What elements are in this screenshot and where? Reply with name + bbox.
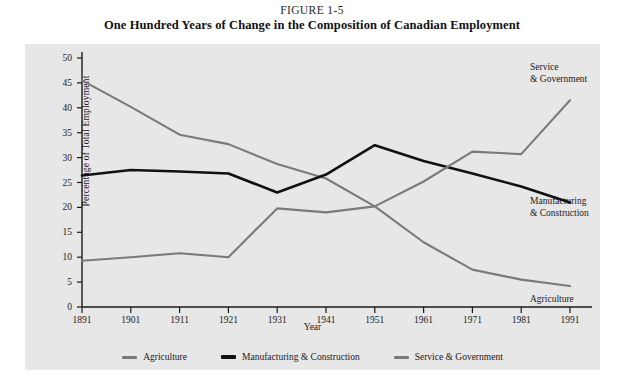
y-axis-tick-label: 0 — [50, 302, 72, 312]
series-annotation: Agriculture — [530, 294, 574, 306]
y-axis-tick-label: 35 — [50, 128, 72, 138]
x-axis-tick-label: 1981 — [498, 315, 544, 326]
legend-swatch-icon — [221, 355, 236, 359]
x-axis-tick-label: 1991 — [547, 315, 593, 326]
x-axis-tick-label: 1921 — [205, 315, 251, 326]
y-axis-tick-label: 5 — [50, 277, 72, 287]
figure-title-block: FIGURE 1-5 One Hundred Years of Change i… — [0, 0, 624, 33]
y-axis-tick-label: 40 — [50, 103, 72, 113]
series-annotation: Service & Government — [530, 62, 587, 85]
y-axis-tick-label: 10 — [50, 252, 72, 262]
x-axis-tick-label: 1911 — [157, 315, 203, 326]
legend-item-label: Agriculture — [143, 352, 187, 362]
y-axis-tick-label: 15 — [50, 227, 72, 237]
x-axis-tick-label: 1891 — [59, 315, 105, 326]
x-axis-tick-label: 1951 — [352, 315, 398, 326]
legend-item-label: Manufacturing & Construction — [242, 352, 360, 362]
y-axis-tick-label: 45 — [50, 78, 72, 88]
figure-number: FIGURE 1-5 — [0, 3, 624, 17]
legend-swatch-icon — [394, 356, 409, 359]
chart-panel: Percentage of Total Employment Year 0510… — [25, 44, 600, 370]
page-title: One Hundred Years of Change in the Compo… — [0, 17, 624, 33]
x-axis-tick-label: 1931 — [254, 315, 300, 326]
legend-item[interactable]: Agriculture — [122, 352, 187, 362]
legend-item[interactable]: Manufacturing & Construction — [221, 352, 360, 362]
y-axis-tick-label: 25 — [50, 178, 72, 188]
x-axis-tick-label: 1971 — [449, 315, 495, 326]
legend-item-label: Service & Government — [415, 352, 503, 362]
series-annotation: Manufacturing & Construction — [530, 196, 589, 219]
x-axis-tick-label: 1961 — [401, 315, 447, 326]
y-axis-tick-label: 20 — [50, 202, 72, 212]
x-axis-tick-label: 1901 — [108, 315, 154, 326]
legend-item[interactable]: Service & Government — [394, 352, 503, 362]
x-axis-tick-label: 1941 — [303, 315, 349, 326]
chart-legend: AgricultureManufacturing & ConstructionS… — [25, 344, 600, 370]
y-axis-tick-label: 50 — [50, 53, 72, 63]
legend-swatch-icon — [122, 356, 137, 359]
y-axis-tick-label: 30 — [50, 153, 72, 163]
